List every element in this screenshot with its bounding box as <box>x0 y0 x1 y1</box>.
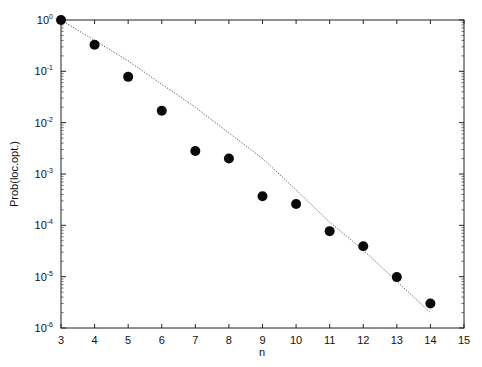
y-tick-label: 10-4 <box>35 218 54 231</box>
data-points <box>56 15 435 309</box>
y-axis-ticks: 10010-110-210-310-410-510-6 <box>35 13 464 334</box>
data-point <box>258 191 268 201</box>
x-tick-label: 15 <box>458 334 470 346</box>
y-axis-label: Prob(loc.opt.) <box>8 141 20 207</box>
data-point <box>190 146 200 156</box>
data-point <box>90 40 100 50</box>
data-point <box>56 15 66 25</box>
x-tick-label: 14 <box>424 334 436 346</box>
y-tick-label: 10-6 <box>35 321 54 334</box>
x-tick-label: 11 <box>324 334 335 346</box>
x-tick-label: 4 <box>92 334 98 346</box>
x-axis-ticks: 3456789101112131415 <box>58 20 470 346</box>
x-tick-label: 13 <box>391 334 403 346</box>
data-point <box>123 72 133 82</box>
data-point <box>425 299 435 309</box>
x-tick-label: 12 <box>357 334 369 346</box>
data-point <box>157 106 167 116</box>
data-point <box>325 226 335 236</box>
chart: 10010-110-210-310-410-510-6 345678910111… <box>0 0 482 367</box>
x-tick-label: 6 <box>159 334 165 346</box>
y-tick-label: 10-5 <box>35 270 54 283</box>
y-tick-label: 10-1 <box>35 64 54 77</box>
x-tick-label: 8 <box>226 334 232 346</box>
x-tick-label: 9 <box>259 334 265 346</box>
x-tick-label: 10 <box>290 334 302 346</box>
data-point <box>224 154 234 164</box>
x-tick-label: 7 <box>192 334 198 346</box>
data-point <box>358 241 368 251</box>
y-tick-label: 10-2 <box>35 116 54 129</box>
y-tick-label: 10-3 <box>35 167 54 180</box>
plot-frame <box>61 20 464 328</box>
y-tick-label: 100 <box>37 13 53 26</box>
x-tick-label: 5 <box>125 334 131 346</box>
fit-line <box>61 20 430 313</box>
data-point <box>392 272 402 282</box>
x-axis-label: n <box>259 346 265 358</box>
x-tick-label: 3 <box>58 334 64 346</box>
data-point <box>291 199 301 209</box>
